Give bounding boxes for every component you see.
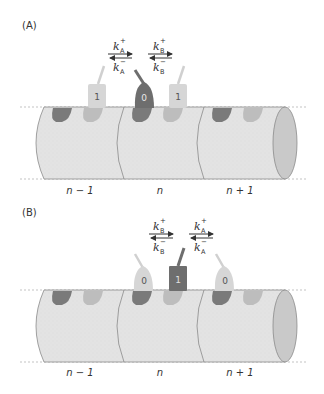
state-value: 0 bbox=[141, 93, 147, 103]
cylinder-end-cap bbox=[273, 290, 297, 362]
diagram-canvas: (A) 1 0 bbox=[0, 0, 324, 394]
protein-state-right: 0 bbox=[215, 254, 234, 291]
rate-pair-left: k A + k A − bbox=[108, 37, 132, 76]
rate-plus: k bbox=[194, 220, 201, 233]
segment-label: n − 1 bbox=[66, 185, 93, 196]
state-value: 0 bbox=[141, 276, 147, 286]
protein-state-center: 1 bbox=[169, 248, 187, 291]
rate-superscript: + bbox=[160, 37, 166, 45]
panel-a: (A) 1 0 bbox=[20, 20, 306, 196]
protein-arm bbox=[178, 248, 184, 266]
state-value: 1 bbox=[175, 92, 181, 102]
panel-label: (A) bbox=[22, 20, 37, 31]
protein-arm bbox=[135, 70, 144, 84]
protein-state-center: 0 bbox=[135, 70, 154, 108]
protein-arm bbox=[98, 66, 104, 84]
rate-superscript: − bbox=[120, 58, 126, 66]
state-value: 0 bbox=[222, 276, 228, 286]
protein-state-right: 1 bbox=[169, 66, 187, 108]
rate-minus: k bbox=[194, 241, 201, 254]
rate-plus: k bbox=[153, 40, 160, 53]
rate-superscript: − bbox=[160, 58, 166, 66]
rate-subscript: B bbox=[160, 68, 164, 76]
rate-minus: k bbox=[153, 61, 160, 74]
segment-label: n − 1 bbox=[66, 367, 93, 378]
rate-superscript: − bbox=[201, 238, 207, 246]
rate-superscript: + bbox=[201, 217, 207, 225]
rate-subscript: B bbox=[160, 248, 164, 256]
protein-arm bbox=[178, 66, 184, 84]
cylinder-end-cap bbox=[273, 107, 297, 179]
rate-pair-right: k B + k B − bbox=[148, 37, 172, 76]
rate-pair-left: k B + k B − bbox=[149, 217, 173, 256]
segment-label: n bbox=[157, 367, 163, 378]
protein-state-left: 1 bbox=[88, 66, 106, 108]
segment-label: n bbox=[157, 185, 163, 196]
rate-subscript: A bbox=[201, 248, 206, 256]
rate-plus: k bbox=[113, 40, 120, 53]
segment-label: n + 1 bbox=[226, 185, 253, 196]
rate-superscript: − bbox=[160, 238, 166, 246]
segment-label: n + 1 bbox=[226, 367, 253, 378]
rate-pair-right: k A + k A − bbox=[189, 217, 213, 256]
protein-arm bbox=[135, 254, 143, 268]
protein-arm bbox=[216, 254, 224, 268]
panel-b: (B) 0 1 0 bbox=[20, 207, 306, 378]
rate-superscript: + bbox=[160, 217, 166, 225]
panel-label: (B) bbox=[22, 207, 37, 218]
state-value: 1 bbox=[94, 92, 100, 102]
rate-minus: k bbox=[113, 61, 120, 74]
protein-state-left: 0 bbox=[134, 254, 153, 291]
rate-minus: k bbox=[153, 241, 160, 254]
rate-superscript: + bbox=[120, 37, 126, 45]
state-value: 1 bbox=[175, 275, 181, 285]
rate-plus: k bbox=[153, 220, 160, 233]
rate-subscript: A bbox=[120, 68, 125, 76]
